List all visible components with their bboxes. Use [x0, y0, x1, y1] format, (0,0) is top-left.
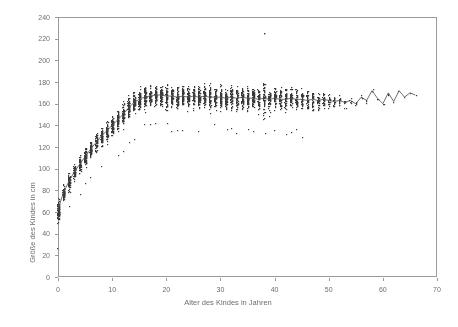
y-tick-label: 180 — [22, 79, 50, 86]
y-tick-label: 80 — [22, 187, 50, 194]
y-axis-label: Größe des Kindes in cm — [28, 153, 37, 293]
y-tick-mark — [55, 169, 58, 170]
y-tick-mark — [55, 39, 58, 40]
y-tick-label: 160 — [22, 100, 50, 107]
y-tick-label: 40 — [22, 230, 50, 237]
y-tick-label: 200 — [22, 57, 50, 64]
y-tick-mark — [55, 190, 58, 191]
x-tick-mark — [383, 278, 384, 281]
y-tick-mark — [55, 255, 58, 256]
x-tick-label: 30 — [205, 286, 235, 293]
x-tick-mark — [112, 278, 113, 281]
x-axis-label: Alter des Kindes in Jahren — [108, 298, 348, 307]
y-tick-label: 60 — [22, 209, 50, 216]
x-tick-mark — [166, 278, 167, 281]
x-tick-label: 20 — [151, 286, 181, 293]
x-tick-label: 0 — [43, 286, 73, 293]
y-tick-label: 0 — [22, 274, 50, 281]
y-tick-mark — [55, 17, 58, 18]
y-tick-label: 140 — [22, 122, 50, 129]
x-tick-label: 70 — [422, 286, 452, 293]
y-tick-mark — [55, 147, 58, 148]
y-tick-mark — [55, 60, 58, 61]
plot-data-canvas — [0, 0, 458, 327]
x-tick-label: 40 — [260, 286, 290, 293]
y-tick-label: 20 — [22, 252, 50, 259]
x-tick-mark — [329, 278, 330, 281]
y-tick-mark — [55, 125, 58, 126]
scatter-plot-figure: Größe des Kindes in cm Alter des Kindes … — [0, 0, 458, 327]
x-tick-label: 60 — [368, 286, 398, 293]
x-tick-label: 50 — [314, 286, 344, 293]
y-tick-mark — [55, 234, 58, 235]
y-tick-mark — [55, 212, 58, 213]
y-tick-label: 220 — [22, 35, 50, 42]
y-tick-mark — [55, 82, 58, 83]
x-tick-mark — [437, 278, 438, 281]
y-tick-label: 120 — [22, 144, 50, 151]
x-tick-label: 10 — [97, 286, 127, 293]
x-tick-mark — [58, 278, 59, 281]
y-tick-label: 100 — [22, 165, 50, 172]
x-tick-mark — [220, 278, 221, 281]
y-tick-mark — [55, 104, 58, 105]
x-tick-mark — [275, 278, 276, 281]
y-tick-label: 240 — [22, 14, 50, 21]
